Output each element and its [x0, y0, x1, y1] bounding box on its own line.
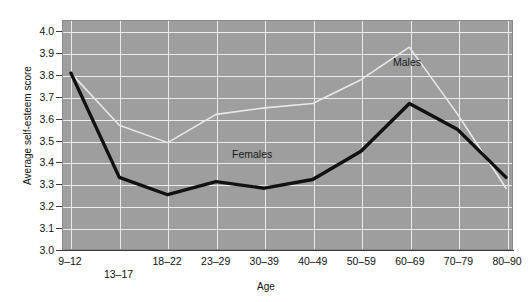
x-tick-label-1: 13–17 [104, 268, 133, 280]
x-axis-line [62, 250, 514, 251]
y-tick-3.3 [56, 184, 62, 185]
y-tick-3.8 [56, 75, 62, 76]
x-tick-label-4: 30–39 [250, 255, 279, 267]
y-tick-3.9 [56, 53, 62, 54]
chart-figure: 4.03.93.83.73.63.53.43.33.23.13.0 Averag… [0, 0, 532, 302]
x-tick-label-9: 80–90 [492, 255, 521, 267]
x-tick-label-7: 60–69 [395, 255, 424, 267]
y-tick-3.1 [56, 228, 62, 229]
y-tick-3.5 [56, 141, 62, 142]
y-tick-3.7 [56, 97, 62, 98]
y-tick-3.2 [56, 206, 62, 207]
plot-area [62, 20, 513, 250]
x-tick-label-8: 70–79 [444, 255, 473, 267]
series-lines [63, 21, 512, 249]
y-tick-label-3.1: 3.1 [2, 223, 54, 233]
y-tick-label-4.0: 4.0 [2, 26, 54, 36]
y-tick-3.6 [56, 119, 62, 120]
x-tick-label-2: 18–22 [153, 255, 182, 267]
x-tick-label-6: 50–59 [347, 255, 376, 267]
x-axis-title: Age [0, 281, 532, 292]
y-tick-3.0 [56, 250, 62, 251]
y-axis-title: Average self-esteem score [22, 36, 33, 216]
y-tick-3.4 [56, 162, 62, 163]
x-tick-label-0: 9–12 [58, 255, 81, 267]
x-tick-label-3: 23–29 [201, 255, 230, 267]
series-label-males: Males [393, 56, 421, 68]
y-tick-label-3.0: 3.0 [2, 245, 54, 255]
y-tick-4.0 [56, 31, 62, 32]
series-label-females: Females [232, 148, 272, 160]
x-tick-label-5: 40–49 [298, 255, 327, 267]
series-line-males [71, 47, 506, 188]
